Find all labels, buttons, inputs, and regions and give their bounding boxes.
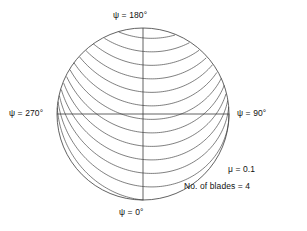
azimuth-label-90: ψ = 90° (237, 108, 266, 118)
azimuth-label-270: ψ = 270° (9, 108, 43, 118)
azimuth-label-180: ψ = 180° (113, 10, 147, 20)
tip-vortex-trail (58, 102, 229, 187)
rotor-wake-figure: ψ = 180° ψ = 0° ψ = 270° ψ = 90° μ = 0.1… (0, 0, 307, 231)
azimuth-axes-group (57, 28, 229, 200)
tip-vortex-trail (59, 96, 228, 173)
advance-ratio-annotation: μ = 0.1 (228, 164, 255, 174)
tip-vortex-trail (57, 108, 143, 200)
blade-count-annotation: No. of blades = 4 (184, 181, 250, 191)
tip-vortex-trail (67, 77, 224, 133)
tip-vortex-trail (119, 32, 175, 38)
azimuth-label-0: ψ = 0° (119, 207, 143, 217)
tip-vortex-trail (93, 44, 198, 65)
tip-vortex-trail (61, 90, 227, 160)
tip-vortex-trail (105, 38, 189, 51)
